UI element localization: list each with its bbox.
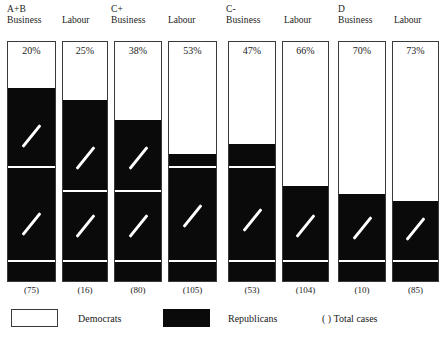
group-business-label: Business <box>111 15 146 26</box>
legend-swatch-republicans <box>163 309 210 327</box>
column-label-a-b-labour: Labour <box>62 15 89 26</box>
bar-total-label: (104) <box>282 285 329 295</box>
group-code-label: C+ <box>111 4 146 15</box>
bar-slash-mark <box>296 214 316 238</box>
group-business-label: Business <box>7 15 42 26</box>
bar-value-label: 20% <box>7 45 56 56</box>
bar-a-b-business <box>7 41 56 282</box>
bar-d-business <box>338 41 386 282</box>
bar-segment-republicans <box>115 120 161 281</box>
bar-c-minus-business <box>228 41 276 282</box>
bar-separator-line <box>283 260 328 262</box>
bar-separator-line <box>229 166 275 168</box>
bar-total-label: (105) <box>168 285 217 295</box>
legend-label-democrats: Democrats <box>78 313 121 324</box>
bar-separator-line <box>229 260 275 262</box>
column-label-d-labour: Labour <box>394 15 421 26</box>
bar-d-labour <box>392 41 439 282</box>
bar-slash-mark <box>183 204 203 228</box>
bar-separator-line <box>63 190 107 192</box>
bar-value-label: 73% <box>392 45 439 56</box>
bar-total-label: (53) <box>228 285 276 295</box>
bar-c-plus-business <box>114 41 162 282</box>
bar-segment-republicans <box>229 144 275 281</box>
bar-c-plus-labour <box>168 41 217 282</box>
group-code-label: A+B <box>7 4 42 15</box>
group-header-c-plus: C+ Business <box>111 4 146 26</box>
bar-segment-republicans <box>283 186 328 281</box>
legend-swatch-democrats <box>11 309 58 327</box>
bar-c-minus-labour <box>282 41 329 282</box>
column-label-c-minus-labour: Labour <box>284 15 311 26</box>
bar-segment-republicans <box>169 154 216 281</box>
bar-value-label: 38% <box>114 45 162 56</box>
group-header-c-minus: C- Business <box>226 4 261 26</box>
bar-segment-republicans <box>63 100 107 281</box>
bar-slash-mark <box>353 216 373 240</box>
bar-slash-mark <box>76 214 96 238</box>
bar-value-label: 70% <box>338 45 386 56</box>
bar-value-label: 47% <box>228 45 276 56</box>
bar-segment-republicans <box>8 88 55 281</box>
bar-separator-line <box>8 260 55 262</box>
bar-slash-mark <box>22 124 42 148</box>
legend-label-total-cases: ( ) Total cases <box>322 313 377 324</box>
column-label-c-plus-labour: Labour <box>168 15 195 26</box>
bar-segment-republicans <box>339 194 385 281</box>
group-code-label: C- <box>226 4 261 15</box>
bar-segment-republicans <box>393 201 438 281</box>
bar-separator-line <box>339 260 385 262</box>
chart-canvas: A+B Business Labour C+ Business Labour C… <box>0 0 445 340</box>
bar-slash-mark <box>129 146 149 170</box>
bar-a-b-labour <box>62 41 108 282</box>
bar-total-label: (10) <box>338 285 386 295</box>
bar-separator-line <box>115 190 161 192</box>
bar-total-label: (75) <box>7 285 56 295</box>
bar-separator-line <box>393 260 438 262</box>
legend-label-republicans: Republicans <box>228 313 277 324</box>
bar-value-label: 66% <box>282 45 329 56</box>
group-header-d: D Business <box>338 4 373 26</box>
bar-separator-line <box>115 260 161 262</box>
bar-slash-mark <box>22 212 42 236</box>
bar-total-label: (80) <box>114 285 162 295</box>
group-header-a-b: A+B Business <box>7 4 42 26</box>
bar-slash-mark <box>129 214 149 238</box>
bar-slash-mark <box>76 146 96 170</box>
group-business-label: Business <box>226 15 261 26</box>
bar-separator-line <box>169 260 216 262</box>
bar-value-label: 53% <box>168 45 217 56</box>
bar-separator-line <box>8 166 55 168</box>
bar-separator-line <box>169 166 216 168</box>
bar-slash-mark <box>406 217 426 241</box>
group-business-label: Business <box>338 15 373 26</box>
bar-separator-line <box>63 260 107 262</box>
bar-total-label: (85) <box>392 285 439 295</box>
group-code-label: D <box>338 4 373 15</box>
bar-total-label: (16) <box>62 285 108 295</box>
bar-slash-mark <box>243 208 263 232</box>
bar-value-label: 25% <box>62 45 108 56</box>
